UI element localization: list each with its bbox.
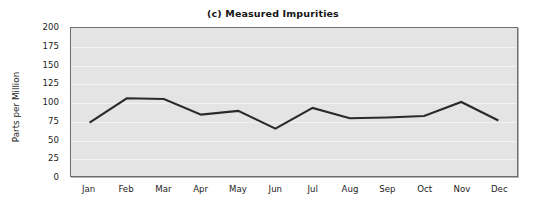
y-axis-tick-label: 0: [0, 172, 64, 182]
x-axis-tick-labels: JanFebMarAprMayJunJulAugSepOctNovDec: [70, 184, 518, 200]
chart-figure: (c) Measured Impurities 0255075100125150…: [0, 0, 546, 213]
y-axis-tick-label: 50: [0, 135, 64, 145]
y-axis-title: Parts per Million: [11, 52, 21, 162]
y-axis-tick-label: 100: [0, 97, 64, 107]
y-axis-tick-labels: 0255075100125150175200: [0, 27, 64, 177]
y-axis-tick-label: 200: [0, 22, 64, 32]
plot-area: [70, 27, 518, 177]
y-axis-tick-label: 175: [0, 41, 64, 51]
line-series-measured-impurities: [71, 28, 517, 176]
chart-title: (c) Measured Impurities: [0, 8, 546, 19]
y-axis-tick-label: 150: [0, 60, 64, 70]
y-axis-tick-label: 75: [0, 116, 64, 126]
y-axis-tick-label: 125: [0, 78, 64, 88]
x-axis-tick-label: Dec: [477, 184, 521, 194]
y-axis-tick-label: 25: [0, 153, 64, 163]
